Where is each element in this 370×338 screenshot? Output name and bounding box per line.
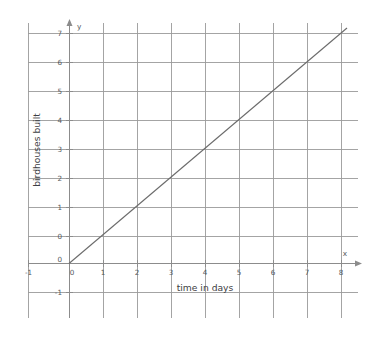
- x-axis: [28, 261, 362, 267]
- trend-line: [69, 28, 347, 264]
- y-tick-label: 0: [57, 232, 62, 241]
- y-tick-label: 6: [57, 58, 62, 67]
- x-tick-label: 2: [135, 268, 140, 277]
- y-axis-arrow-icon: [67, 19, 73, 26]
- x-tick-label: 8: [339, 268, 344, 277]
- x-axis-tick-labels: -1 0 1 2 3 4 5 6 7 8: [25, 268, 344, 277]
- grid-vertical-lines: [29, 23, 342, 318]
- x-tick-label: 5: [237, 268, 242, 277]
- y-tick-label: 4: [57, 116, 62, 125]
- y-axis-title: birdhouses built: [31, 113, 42, 187]
- x-tick-label: 6: [271, 268, 276, 277]
- y-tick-label-zero: 0: [57, 255, 62, 264]
- grid-horizontal-lines: [28, 34, 358, 293]
- x-tick-label: 0: [70, 268, 75, 277]
- y-tick-label: 7: [57, 29, 62, 38]
- y-tick-label: -1: [55, 288, 62, 297]
- x-tick-label: 1: [101, 268, 106, 277]
- y-tick-label: 3: [57, 145, 62, 154]
- chart-container: -1 0 1 2 3 4 5 6 7 8 7 6 5 4 3 2 1 0 0 -…: [0, 0, 370, 338]
- y-tick-label: 2: [57, 174, 62, 183]
- x-axis-title: time in days: [177, 282, 234, 293]
- x-axis-arrow-icon: [355, 261, 362, 267]
- x-tick-label: 4: [203, 268, 208, 277]
- y-axis-tick-labels: 7 6 5 4 3 2 1 0 0 -1: [55, 29, 63, 297]
- data-series-line: [69, 28, 347, 264]
- x-axis-name-label: x: [343, 249, 348, 258]
- y-axis-name-label: y: [77, 22, 82, 31]
- y-tick-label: 5: [57, 87, 62, 96]
- x-tick-label: -1: [25, 268, 32, 277]
- y-tick-label: 1: [57, 203, 62, 212]
- x-tick-label: 3: [169, 268, 174, 277]
- x-tick-label: 7: [305, 268, 310, 277]
- line-chart-svg: -1 0 1 2 3 4 5 6 7 8 7 6 5 4 3 2 1 0 0 -…: [0, 0, 370, 338]
